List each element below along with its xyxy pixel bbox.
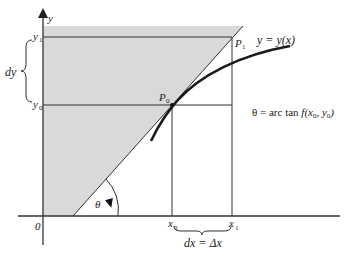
dx-brace bbox=[174, 226, 231, 235]
angle-arc bbox=[106, 179, 118, 216]
angle-label: θ bbox=[95, 198, 101, 210]
origin-label: 0 bbox=[35, 220, 41, 232]
dy-label: dy bbox=[5, 65, 17, 79]
y-axis-label: y bbox=[47, 12, 53, 24]
p1-subscript: 1 bbox=[242, 43, 246, 51]
curve-label: y = y(x) bbox=[256, 33, 295, 47]
angle-arrow-icon bbox=[105, 198, 115, 209]
y0-subscript: 0 bbox=[39, 104, 43, 112]
equation-label: θ = arc tan f(x0, y0) bbox=[252, 106, 334, 120]
y1-subscript: 1 bbox=[39, 36, 43, 44]
y1-label: y bbox=[32, 30, 38, 42]
x1-label: x bbox=[228, 217, 234, 229]
x1-subscript: 1 bbox=[235, 224, 239, 232]
dy-brace bbox=[21, 40, 32, 102]
x0-subscript: 0 bbox=[174, 224, 178, 232]
y-axis-arrow-icon bbox=[38, 8, 48, 18]
x0-label: x bbox=[167, 217, 173, 229]
p0-label: P bbox=[158, 91, 166, 103]
p0-subscript: 0 bbox=[166, 97, 170, 105]
dx-label: dx = Δx bbox=[184, 236, 222, 250]
p0-point bbox=[170, 103, 174, 107]
shaded-region bbox=[43, 26, 243, 216]
p1-label: P bbox=[234, 37, 242, 49]
direction-field-diagram: y 0 y 1 y 0 dy x 0 x 1 dx = Δx P 0 P 1 y… bbox=[0, 0, 344, 256]
y0-label: y bbox=[32, 98, 38, 110]
